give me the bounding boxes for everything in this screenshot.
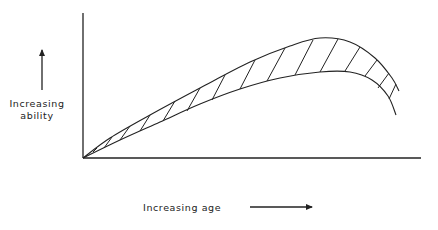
hatch-line [378,73,389,88]
hatch-line [389,84,396,99]
hatch-line [320,39,338,72]
y-axis-label-line1: Increasing [9,98,65,110]
hatch-line [345,47,360,71]
x-axis-label: Increasing age [143,202,221,213]
y-axis-label-line2: ability [9,110,65,122]
lower-curve [83,71,396,158]
upper-curve [83,38,399,158]
y-axis-label: Increasing ability [9,98,65,122]
ability-vs-age-diagram [0,0,438,230]
hatch-lines [93,39,396,152]
ability-band [83,38,399,158]
hatch-line [365,60,377,76]
hatch-line [295,40,313,75]
